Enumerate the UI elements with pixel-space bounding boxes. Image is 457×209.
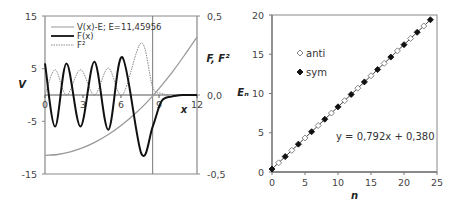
y-tick-label: 15 bbox=[252, 49, 264, 60]
x-tick-label: 15 bbox=[365, 177, 377, 188]
figure: 155-5-150,50,0-0,5036912VF, F²xV(x)-E; E… bbox=[0, 0, 457, 209]
legend-marker bbox=[297, 50, 303, 56]
y-tick-label: 20 bbox=[252, 10, 264, 21]
energy-levels-chart: 051015200510152025Eₙnantisymy = 0,792x +… bbox=[0, 0, 457, 209]
legend-marker bbox=[297, 69, 303, 75]
x-tick-label: 0 bbox=[269, 177, 275, 188]
x-tick-label: 10 bbox=[332, 177, 344, 188]
x-axis-title: n bbox=[351, 190, 358, 201]
y-tick-label: 10 bbox=[252, 88, 264, 99]
legend: antisym bbox=[297, 48, 327, 78]
y-tick-label: 0 bbox=[258, 167, 264, 178]
x-tick-label: 25 bbox=[431, 177, 443, 188]
y-axis-title: Eₙ bbox=[237, 87, 249, 98]
x-tick-label: 20 bbox=[398, 177, 410, 188]
trendline-equation: y = 0,792x + 0,380 bbox=[336, 131, 435, 142]
legend-label: sym bbox=[306, 67, 327, 78]
x-tick-label: 5 bbox=[302, 177, 308, 188]
legend-label: anti bbox=[306, 48, 325, 59]
y-tick-label: 5 bbox=[258, 127, 264, 138]
